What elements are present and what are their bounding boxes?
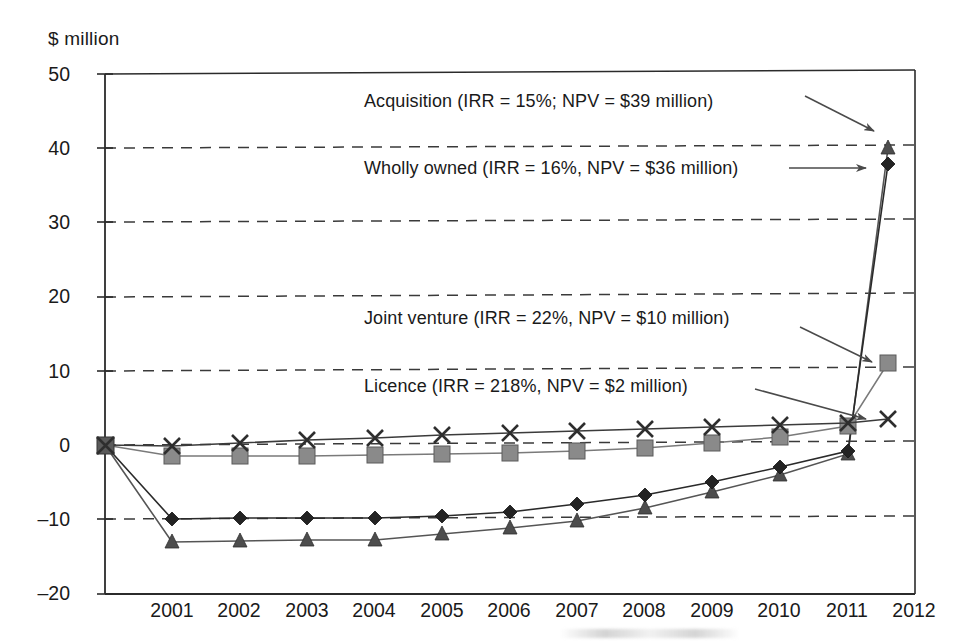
- gridlines: [105, 145, 915, 519]
- series-joint-venture: [105, 355, 896, 464]
- arrow-acquisition: [805, 96, 874, 131]
- plot-area: [0, 0, 953, 641]
- annotation-arrows: [755, 96, 874, 419]
- arrow-joint-venture: [800, 327, 872, 362]
- arrow-licence: [755, 389, 866, 419]
- series-wholly-owned: [105, 157, 895, 526]
- series-acquisition: [105, 140, 895, 548]
- chart-container: $ million 50 40 30 20 10 0 –10 –20 2001 …: [0, 0, 953, 641]
- scan-artifact: [560, 629, 740, 638]
